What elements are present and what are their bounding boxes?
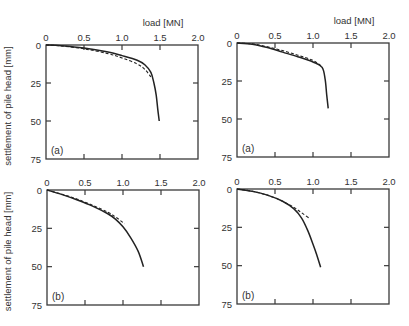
- x-tick-label: 2.0: [382, 176, 395, 187]
- y-tick-label: 0: [227, 184, 232, 195]
- x-tick-label: 0: [234, 176, 239, 187]
- x-tick-label: 2.0: [382, 30, 395, 41]
- figure: 00.51.01.52.00255075load [MN]settlement …: [0, 0, 409, 326]
- y-tick-label: 75: [30, 154, 41, 165]
- x-tick-label: 1.5: [154, 177, 167, 188]
- x-tick-label: 0.5: [268, 30, 281, 41]
- y-tick-label: 25: [30, 78, 41, 89]
- series-solid-line: [46, 45, 159, 121]
- y-tick-label: 75: [221, 299, 232, 310]
- x-tick-label: 2.0: [192, 177, 205, 188]
- x-tick-label: 1.0: [306, 176, 319, 187]
- y-tick-label: 25: [31, 223, 42, 234]
- x-tick-label: 0.5: [78, 177, 91, 188]
- plot-frame: [46, 45, 198, 159]
- panel-top-right: 00.51.01.52.00255075load [MN](a): [221, 15, 395, 163]
- panel-label: (b): [242, 290, 254, 301]
- y-tick-label: 0: [36, 40, 41, 51]
- x-tick-label: 0: [234, 30, 239, 41]
- y-tick-label: 0: [227, 38, 232, 49]
- y-tick-label: 50: [221, 260, 232, 271]
- x-tick-label: 1.0: [115, 32, 128, 43]
- x-tick-label: 0: [43, 32, 48, 43]
- series-solid-line: [47, 190, 144, 267]
- y-tick-label: 75: [31, 300, 42, 311]
- series-solid-line: [237, 43, 328, 108]
- panel-bottom-left: 00.51.01.52.00255075settlement of pile h…: [2, 177, 206, 311]
- y-tick-label: 0: [37, 185, 42, 196]
- x-tick-label: 2.0: [191, 32, 204, 43]
- plot-frame: [237, 43, 389, 157]
- plot-frame: [237, 189, 389, 304]
- panel-top-left: 00.51.01.52.00255075load [MN]settlement …: [2, 17, 205, 166]
- panel-label: (a): [242, 143, 254, 154]
- series-dashed-line: [47, 190, 125, 224]
- plot-frame: [47, 190, 199, 305]
- y-tick-label: 50: [221, 114, 232, 125]
- panel-label: (a): [51, 145, 63, 156]
- x-tick-label: 1.0: [116, 177, 129, 188]
- series-dashed-line: [237, 43, 323, 67]
- x-tick-label: 1.5: [344, 176, 357, 187]
- y-axis-label: settlement of pile head [mm]: [2, 46, 13, 165]
- y-tick-label: 25: [221, 222, 232, 233]
- x-axis-label: load [MN]: [143, 17, 184, 28]
- series-solid-line: [237, 189, 321, 267]
- y-axis-label: settlement of pile head [mm]: [2, 192, 13, 311]
- y-tick-label: 50: [30, 116, 41, 127]
- y-tick-label: 75: [221, 152, 232, 163]
- x-axis-label: load [MN]: [334, 15, 375, 26]
- panel-bottom-right: 00.51.01.52.00255075(b): [221, 176, 395, 310]
- x-tick-label: 0.5: [268, 176, 281, 187]
- y-tick-label: 25: [221, 76, 232, 87]
- x-tick-label: 0: [44, 177, 49, 188]
- x-tick-label: 1.0: [306, 30, 319, 41]
- x-tick-label: 0.5: [77, 32, 90, 43]
- y-tick-label: 50: [31, 261, 42, 272]
- x-tick-label: 1.5: [153, 32, 166, 43]
- x-tick-label: 1.5: [344, 30, 357, 41]
- panel-label: (b): [52, 291, 64, 302]
